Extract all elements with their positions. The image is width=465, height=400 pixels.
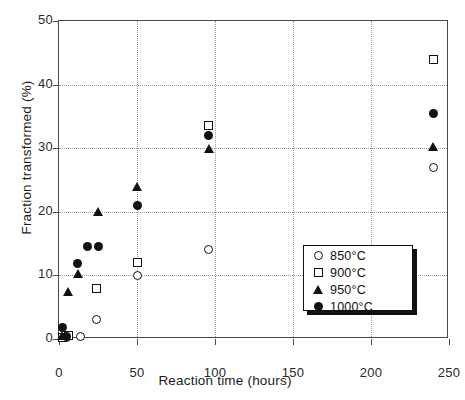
legend-label: 1000°C [330, 300, 373, 314]
data-point [93, 207, 103, 216]
legend-item: 950°C [304, 282, 412, 297]
data-point [76, 332, 85, 341]
legend-marker-open-square-icon [304, 265, 330, 280]
data-point [204, 131, 213, 140]
x-axis-tick [215, 339, 216, 345]
data-point [429, 109, 438, 118]
legend-marker-filled-circle-icon [304, 299, 330, 314]
y-axis-tick [53, 275, 59, 276]
chart-legend: 850°C900°C950°C1000°C [303, 245, 413, 311]
legend-marker-open-circle-icon [304, 248, 330, 263]
data-point [92, 315, 101, 324]
data-point [73, 259, 82, 268]
data-point [133, 201, 142, 210]
data-point [204, 245, 213, 254]
data-point [429, 55, 438, 64]
y-gridline [59, 85, 447, 86]
data-point [429, 163, 438, 172]
y-gridline [59, 148, 447, 149]
legend-marker-filled-triangle-icon [304, 282, 330, 297]
y-axis-tick-label: 0 [7, 330, 53, 345]
y-axis-tick [53, 21, 59, 22]
data-point [133, 271, 142, 280]
y-axis-tick [53, 212, 59, 213]
legend-label: 950°C [330, 283, 366, 297]
x-axis-tick [371, 339, 372, 345]
y-axis-tick-label: 50 [7, 12, 53, 27]
legend-item: 1000°C [304, 299, 412, 314]
x-gridline [137, 21, 138, 337]
x-axis-tick [137, 339, 138, 345]
data-point [132, 182, 142, 191]
data-point [428, 142, 438, 151]
data-point [94, 242, 103, 251]
data-point [58, 323, 67, 332]
x-axis-label: Reaction time (hours) [0, 373, 450, 388]
legend-item: 850°C [304, 248, 412, 263]
legend-item: 900°C [304, 265, 412, 280]
x-gridline [215, 21, 216, 337]
data-point [83, 242, 92, 251]
data-point [204, 121, 213, 130]
x-axis-tick [293, 339, 294, 345]
y-axis-tick [53, 148, 59, 149]
data-point [92, 284, 101, 293]
y-axis-tick [53, 85, 59, 86]
legend-label: 900°C [330, 266, 366, 280]
data-point [63, 287, 73, 296]
x-axis-tick [449, 339, 450, 345]
data-point [133, 258, 142, 267]
data-point [204, 144, 214, 153]
y-axis-label: Fraction transformed (%) [19, 38, 34, 278]
data-point [73, 269, 83, 278]
legend-label: 850°C [330, 249, 366, 263]
y-gridline [59, 212, 447, 213]
x-gridline [293, 21, 294, 337]
